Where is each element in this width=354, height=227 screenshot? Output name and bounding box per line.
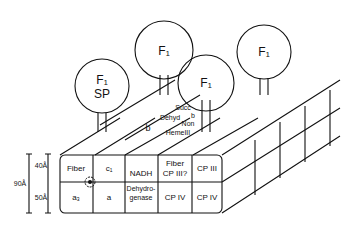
- label-b: b: [145, 123, 150, 133]
- label-dehyd: Dehyd: [160, 114, 180, 122]
- mitochondrial-membrane-diagram: F₁ SP F₁ F₁ F₁ Succ Dehyd b Non HemeIII …: [0, 0, 354, 227]
- cell-cpiv-2: CP IV: [197, 193, 218, 202]
- cell-dehydro: Dehydro-: [127, 185, 156, 193]
- cell-fiber: Fiber: [67, 164, 86, 173]
- label-non: Non: [182, 120, 195, 127]
- f1-label-back: F₁: [158, 44, 169, 58]
- f1-label-right: F₁: [258, 45, 269, 59]
- dim-lower: 50Å: [35, 193, 48, 201]
- f1-label-front: F₁: [200, 76, 211, 90]
- cell-cpiv-1: CP IV: [165, 193, 186, 202]
- dim-upper: 40Å: [35, 161, 48, 169]
- dim-total: 90Å: [14, 179, 27, 187]
- cell-fiber-2: Fiber: [166, 159, 185, 168]
- label-b-small: b: [191, 112, 195, 119]
- cell-genase: genase: [130, 194, 153, 202]
- cell-a: a: [107, 193, 112, 202]
- cell-cpiii: CP III: [197, 164, 217, 173]
- label-succ: Succ: [175, 104, 191, 111]
- cell-a3: a₃: [72, 193, 80, 202]
- cell-c1: c₁: [106, 164, 113, 173]
- f1-label-sp: F₁: [96, 73, 107, 87]
- f1-sub-sp: SP: [94, 87, 110, 101]
- label-heme: HemeIII: [166, 129, 191, 136]
- cell-nadh: NADH: [130, 169, 153, 178]
- cell-cpiii-q: CP III?: [163, 169, 188, 178]
